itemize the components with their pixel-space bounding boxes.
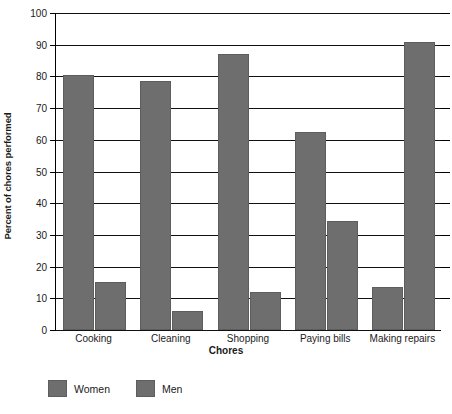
y-tick-label-50: 50 <box>36 166 47 177</box>
y-tick-right-40 <box>441 203 450 204</box>
bar-women-cooking <box>63 75 94 330</box>
legend: WomenMen <box>48 380 182 397</box>
y-tick-label-80: 80 <box>36 71 47 82</box>
x-tick-label-shopping: Shopping <box>227 333 269 344</box>
legend-swatch-women <box>48 380 67 397</box>
y-tick-label-100: 100 <box>30 8 47 19</box>
bar-group <box>63 13 126 330</box>
y-axis-title-text: Percent of chores performed <box>2 46 13 306</box>
y-tick-label-40: 40 <box>36 198 47 209</box>
x-axis-title-text: Chores <box>209 345 243 356</box>
bar-group <box>140 13 203 330</box>
y-tick-label-70: 70 <box>36 103 47 114</box>
x-tick-label-cooking: Cooking <box>75 333 112 344</box>
y-tick-label-90: 90 <box>36 39 47 50</box>
bar-men-cooking <box>95 282 126 330</box>
y-tick-right-100 <box>441 13 450 14</box>
y-tick-label-10: 10 <box>36 293 47 304</box>
bar-women-making-repairs <box>372 287 403 330</box>
legend-label-women: Women <box>74 383 110 395</box>
y-tick-right-70 <box>441 108 450 109</box>
bar-group <box>295 13 358 330</box>
x-tick-label-making-repairs: Making repairs <box>370 333 436 344</box>
bar-group <box>372 13 435 330</box>
y-tick-right-80 <box>441 76 450 77</box>
bar-men-shopping <box>250 292 281 330</box>
bar-men-making-repairs <box>404 42 435 330</box>
y-tick-right-60 <box>441 140 450 141</box>
y-tick-label-60: 60 <box>36 134 47 145</box>
y-tick-right-10 <box>441 298 450 299</box>
gridline-0 <box>56 330 441 331</box>
y-tick-0 <box>50 330 56 331</box>
y-tick-right-50 <box>441 172 450 173</box>
plot-area: 0102030405060708090100 <box>55 13 441 330</box>
y-axis-title: Percent of chores performed <box>2 0 13 46</box>
y-tick-label-30: 30 <box>36 229 47 240</box>
bar-women-cleaning <box>140 81 171 330</box>
bar-chart: Percent of chores performed 010203040506… <box>0 0 452 414</box>
legend-swatch-men <box>136 380 155 397</box>
y-tick-right-90 <box>441 45 450 46</box>
bar-men-paying-bills <box>327 221 358 330</box>
y-tick-label-20: 20 <box>36 261 47 272</box>
bars-layer <box>56 13 441 330</box>
x-axis-title: Chores <box>0 345 452 356</box>
legend-item-men: Men <box>136 380 182 397</box>
bar-women-paying-bills <box>295 132 326 330</box>
bar-men-cleaning <box>172 311 203 330</box>
bar-group <box>218 13 281 330</box>
x-tick-label-cleaning: Cleaning <box>151 333 190 344</box>
y-tick-right-20 <box>441 267 450 268</box>
legend-label-men: Men <box>162 383 182 395</box>
y-tick-right-30 <box>441 235 450 236</box>
x-tick-label-paying-bills: Paying bills <box>300 333 351 344</box>
bar-women-shopping <box>218 54 249 330</box>
y-tick-label-0: 0 <box>41 325 47 336</box>
legend-item-women: Women <box>48 380 110 397</box>
